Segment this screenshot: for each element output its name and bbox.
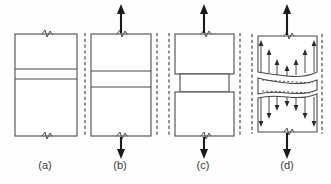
panel-c-lower-block xyxy=(175,92,234,136)
panel-c-label: (c) xyxy=(197,159,210,171)
figure-root: (a) (b) xyxy=(0,0,331,184)
panel-c: (c) xyxy=(169,4,240,171)
diagram-canvas: (a) (b) xyxy=(0,0,331,184)
panel-d: (d) xyxy=(252,4,322,171)
panel-a-body xyxy=(15,34,77,136)
panel-c-load-arrow-down-head xyxy=(200,149,208,159)
panel-c-upper-block xyxy=(175,34,234,74)
panel-a-label: (a) xyxy=(38,159,51,171)
panel-b-label: (b) xyxy=(113,159,126,171)
panel-b-load-arrow-up-head xyxy=(117,4,125,14)
panel-d-load-arrow-down-head xyxy=(283,149,291,159)
panel-b: (b) xyxy=(85,4,157,171)
panel-b-load-arrow-down-head xyxy=(117,149,125,159)
panel-b-body xyxy=(91,34,151,136)
panel-c-neck-band xyxy=(180,74,229,92)
panel-d-load-arrow-up-head xyxy=(283,4,291,14)
panel-d-label: (d) xyxy=(280,159,293,171)
panel-c-load-arrow-up-head xyxy=(200,4,208,14)
panel-a: (a) xyxy=(15,30,77,171)
